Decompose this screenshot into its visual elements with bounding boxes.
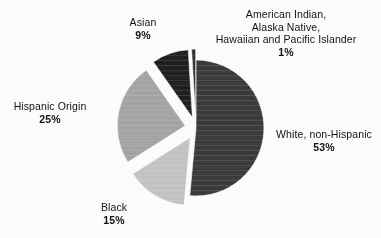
slice-label-asian: Asian 9%: [112, 16, 174, 41]
slice-value-black: 15%: [84, 214, 144, 227]
pie-slices-texture: [117, 49, 264, 205]
slice-label-line2: Alaska Native,: [193, 21, 379, 34]
slice-label-text: Asian: [112, 16, 174, 29]
slice-value-american-indian: 1%: [193, 46, 379, 59]
slice-label-text: White, non-Hispanic: [268, 128, 380, 141]
slice-value-asian: 9%: [112, 29, 174, 42]
slice-value-white: 53%: [268, 141, 380, 154]
slice-value-hispanic: 25%: [2, 113, 98, 126]
pie-slice-texture: [190, 60, 264, 196]
slice-label-american-indian-alaska-native-hawaiian-pacific-islander: American Indian, Alaska Native, Hawaiian…: [193, 8, 379, 58]
pie-slice-texture: [192, 49, 196, 117]
slice-label-white-non-hispanic: White, non-Hispanic 53%: [268, 128, 380, 153]
slice-label-hispanic-origin: Hispanic Origin 25%: [2, 100, 98, 125]
slice-label-line1: American Indian,: [193, 8, 379, 21]
slice-label-line3: Hawaiian and Pacific Islander: [193, 33, 379, 46]
pie-chart-figure: American Indian, Alaska Native, Hawaiian…: [0, 0, 381, 238]
slice-label-black: Black 15%: [84, 201, 144, 226]
slice-label-text: Hispanic Origin: [2, 100, 98, 113]
slice-label-text: Black: [84, 201, 144, 214]
